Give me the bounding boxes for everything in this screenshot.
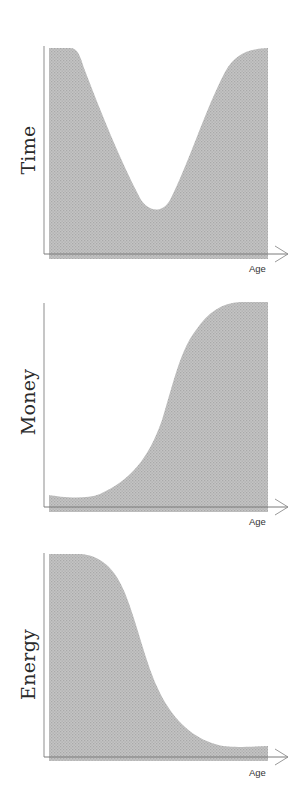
money-area-fill <box>49 302 268 512</box>
money-x-label: Age <box>249 516 266 527</box>
time-y-label: Time <box>17 125 39 175</box>
energy-chart-panel: Energy Age <box>0 533 308 803</box>
energy-y-label: Energy <box>17 630 39 700</box>
money-y-label: Money <box>17 367 39 437</box>
energy-area-fill <box>49 554 268 761</box>
money-chart-panel: Money Age <box>0 270 308 540</box>
time-chart <box>0 0 308 280</box>
money-chart <box>0 270 308 540</box>
energy-x-label: Age <box>249 767 266 778</box>
time-area-fill <box>49 48 268 259</box>
time-chart-panel: Time Age <box>0 0 308 280</box>
energy-chart <box>0 533 308 803</box>
